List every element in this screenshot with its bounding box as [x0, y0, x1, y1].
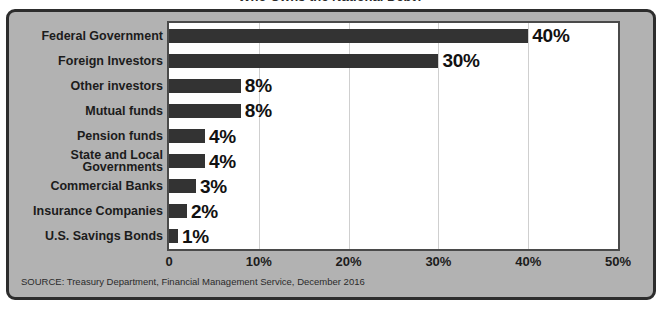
category-label: State and LocalGovernments — [17, 149, 163, 173]
x-tick-label: 50% — [605, 254, 631, 269]
bar-value-label: 2% — [187, 202, 218, 221]
category-label: Foreign Investors — [17, 55, 163, 67]
bar-row: 30% — [169, 54, 618, 68]
bar-row: 8% — [169, 79, 618, 93]
bar-value-label: 30% — [438, 51, 479, 70]
category-label: Federal Government — [17, 30, 163, 42]
source-note: SOURCE: Treasury Department, Financial M… — [21, 276, 365, 287]
x-tick-label: 30% — [425, 254, 451, 269]
x-tick-label: 40% — [515, 254, 541, 269]
bar — [169, 29, 528, 43]
bar-row: 1% — [169, 229, 618, 243]
bar-row: 2% — [169, 204, 618, 218]
bar-row: 8% — [169, 104, 618, 118]
bar — [169, 179, 196, 193]
bar — [169, 129, 205, 143]
chart-figure: Who Owns the National Debt? Federal Gove… — [0, 0, 662, 312]
bar-value-label: 1% — [178, 227, 209, 246]
category-label: Insurance Companies — [17, 205, 163, 217]
x-tick-label: 0 — [165, 254, 172, 269]
plot-area: 40%30%8%8%4%4%3%2%1% — [167, 21, 620, 251]
chart-panel: Federal GovernmentForeign InvestorsOther… — [6, 9, 656, 300]
category-label: U.S. Savings Bonds — [17, 230, 163, 242]
bar — [169, 79, 241, 93]
bar-value-label: 4% — [205, 127, 236, 146]
x-axis-tick-labels: 010%20%30%40%50% — [167, 254, 620, 272]
category-axis-labels: Federal GovernmentForeign InvestorsOther… — [17, 21, 163, 251]
category-label: Pension funds — [17, 130, 163, 142]
bar-value-label: 8% — [241, 76, 272, 95]
bar-value-label: 40% — [528, 26, 569, 45]
chart-title: Who Owns the National Debt? — [0, 0, 662, 3]
bar — [169, 104, 241, 118]
bar-row: 40% — [169, 29, 618, 43]
bar — [169, 204, 187, 218]
x-tick-label: 10% — [246, 254, 272, 269]
bar-value-label: 4% — [205, 152, 236, 171]
bar-row: 3% — [169, 179, 618, 193]
bar-row: 4% — [169, 154, 618, 168]
category-label: Commercial Banks — [17, 180, 163, 192]
category-label: Mutual funds — [17, 105, 163, 117]
category-label: Other investors — [17, 80, 163, 92]
bar-series: 40%30%8%8%4%4%3%2%1% — [169, 23, 618, 249]
bar — [169, 229, 178, 243]
bar-row: 4% — [169, 129, 618, 143]
x-tick-label: 20% — [336, 254, 362, 269]
bar-value-label: 3% — [196, 177, 227, 196]
bar — [169, 154, 205, 168]
bar-value-label: 8% — [241, 101, 272, 120]
bar — [169, 54, 438, 68]
